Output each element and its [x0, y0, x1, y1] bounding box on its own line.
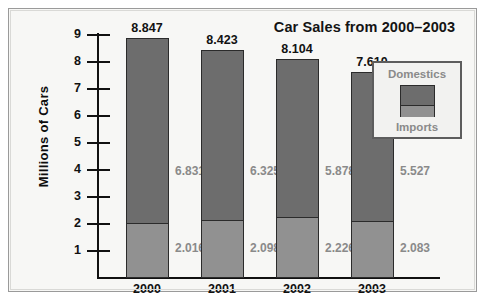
legend-swatch-domestics	[401, 86, 434, 105]
y-tick-4	[87, 169, 110, 171]
y-tick-label-8: 8	[61, 54, 81, 68]
legend-swatch	[400, 85, 435, 117]
legend-label-domestics: Domestics	[374, 68, 460, 80]
y-tick-3	[87, 196, 110, 198]
bar-label-2003-imports: 2.083	[400, 241, 450, 255]
y-tick-6	[87, 115, 110, 117]
bar-total-2001: 8.423	[187, 33, 257, 47]
legend-label-imports: Imports	[374, 121, 460, 133]
y-tick-1	[87, 250, 110, 252]
y-tick-label-6: 6	[61, 108, 81, 122]
x-label-2003: 2003	[337, 282, 407, 296]
y-tick-8	[87, 61, 110, 63]
y-tick-label-9: 9	[61, 27, 81, 41]
bar-2001-domestics[interactable]	[201, 50, 244, 221]
bar-2000-imports[interactable]	[126, 223, 169, 278]
y-tick-9	[87, 34, 110, 36]
bar-2003-imports[interactable]	[351, 221, 394, 278]
bar-total-2002: 8.104	[262, 42, 332, 56]
bar-2002-imports[interactable]	[276, 217, 319, 278]
y-tick-label-7: 7	[61, 81, 81, 95]
bar-label-2003-domestics: 5.527	[400, 164, 450, 178]
legend: Domestics Imports	[372, 61, 462, 139]
plot-area: 9 8 7 6 5 4 3 2 1 8.847 6.831 2.016 2000…	[9, 9, 478, 293]
bar-2002-domestics[interactable]	[276, 59, 319, 218]
legend-swatch-imports	[401, 105, 434, 117]
y-tick-label-5: 5	[61, 135, 81, 149]
y-tick-7	[87, 88, 110, 90]
x-label-2001: 2001	[187, 282, 257, 296]
bar-2000-domestics[interactable]	[126, 38, 169, 224]
bar-2001-imports[interactable]	[201, 220, 244, 278]
y-tick-5	[87, 142, 110, 144]
x-label-2000: 2000	[112, 282, 182, 296]
y-tick-label-4: 4	[61, 162, 81, 176]
y-axis-line	[97, 33, 99, 279]
y-tick-label-3: 3	[61, 189, 81, 203]
bar-total-2000: 8.847	[112, 21, 182, 35]
x-label-2002: 2002	[262, 282, 332, 296]
y-tick-label-1: 1	[61, 243, 81, 257]
y-tick-label-2: 2	[61, 216, 81, 230]
y-tick-2	[87, 223, 110, 225]
chart-panel: Car Sales from 2000–2003 Millions of Car…	[8, 8, 477, 292]
